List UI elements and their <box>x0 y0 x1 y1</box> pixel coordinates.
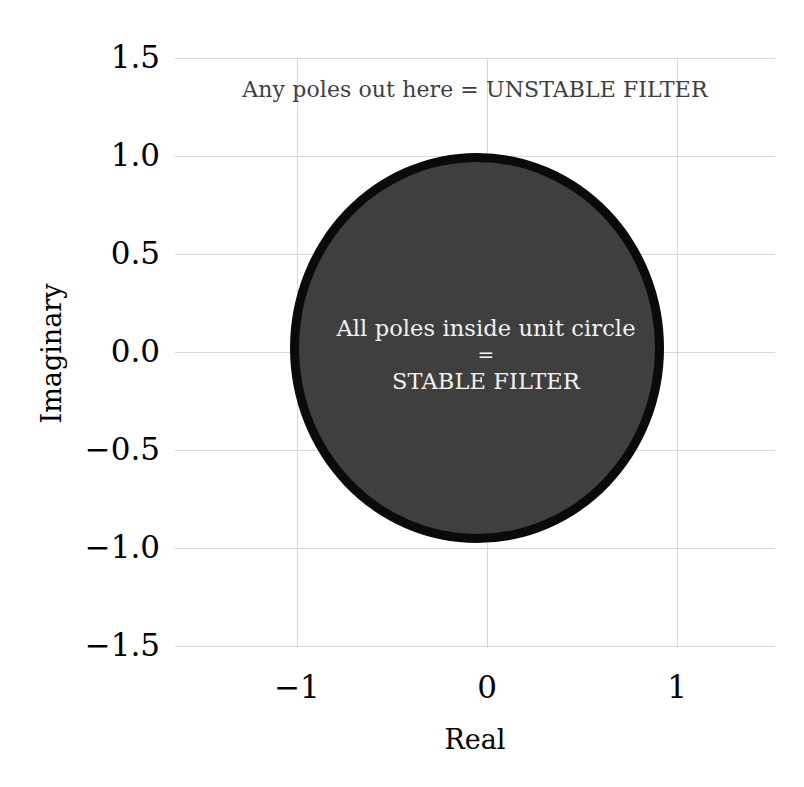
gridline-horizontal <box>175 646 775 647</box>
y-tick-label: 1.0 <box>0 140 160 171</box>
unit-circle-shape: All poles inside unit circle = STABLE FI… <box>290 153 664 543</box>
y-tick-label: 0.5 <box>0 238 160 269</box>
stable-annotation-line-3: STABLE FILTER <box>299 367 673 397</box>
stable-annotation-line-1: All poles inside unit circle <box>299 314 673 344</box>
x-axis-title: Real <box>175 726 775 753</box>
y-tick-label: −1.0 <box>0 532 160 563</box>
unstable-region-annotation: Any poles out here = UNSTABLE FILTER <box>175 77 775 102</box>
gridline-vertical <box>677 58 678 648</box>
y-axis-title: Imaginary <box>38 254 65 454</box>
stable-region-annotation: All poles inside unit circle = STABLE FI… <box>299 314 673 396</box>
gridline-horizontal <box>175 548 775 549</box>
plot-area: Any poles out here = UNSTABLE FILTER All… <box>175 58 775 648</box>
x-tick-label: 0 <box>427 672 547 703</box>
stable-annotation-equals: = <box>299 344 673 367</box>
gridline-horizontal <box>175 58 775 59</box>
y-tick-label: −0.5 <box>0 434 160 465</box>
y-tick-label: 1.5 <box>0 42 160 73</box>
x-tick-label: 1 <box>617 672 737 703</box>
y-tick-label: 0.0 <box>0 336 160 367</box>
x-tick-label: −1 <box>237 672 357 703</box>
pole-zero-stability-figure: 1.5 1.0 0.5 0.0 −0.5 −1.0 −1.5 −1 0 1 Re… <box>0 0 804 787</box>
y-tick-label: −1.5 <box>0 630 160 661</box>
